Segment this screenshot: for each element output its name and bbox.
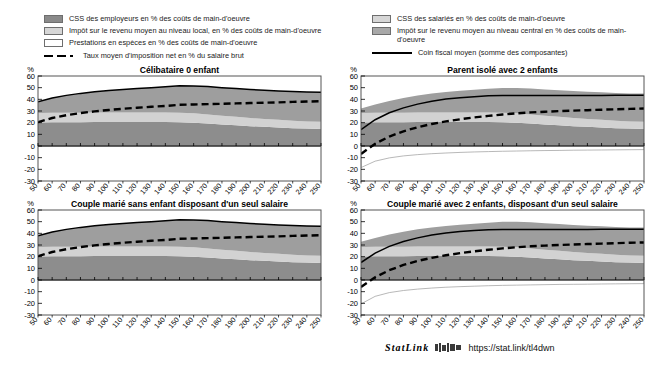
- svg-text:170: 170: [518, 315, 533, 330]
- chart-panel-couple-marie-2-enfants: %Couple marié avec 2 enfants, disposant …: [337, 196, 645, 366]
- svg-text:230: 230: [602, 181, 617, 196]
- svg-text:220: 220: [265, 315, 280, 330]
- svg-text:40: 40: [350, 95, 358, 104]
- svg-text:230: 230: [279, 181, 294, 196]
- svg-text:0: 0: [31, 142, 35, 151]
- svg-text:110: 110: [110, 181, 124, 196]
- svg-text:-10: -10: [24, 287, 35, 296]
- svg-text:50: 50: [350, 83, 358, 92]
- svg-text:-10: -10: [347, 287, 358, 296]
- svg-text:230: 230: [279, 315, 294, 330]
- legend-swatch-dark-gray-icon: [44, 15, 63, 23]
- svg-text:200: 200: [560, 315, 575, 330]
- legend-label: Taux moyen d'imposition net en % du sala…: [83, 51, 244, 60]
- svg-text:-10: -10: [347, 153, 358, 162]
- svg-text:140: 140: [475, 181, 490, 196]
- legend-item-cash-benefits: Prestations en espèces en % des coûts de…: [44, 38, 344, 49]
- legend-dashed-line-icon: [44, 52, 78, 60]
- svg-text:110: 110: [110, 315, 124, 330]
- svg-text:-20: -20: [24, 299, 35, 308]
- svg-text:40: 40: [350, 229, 358, 238]
- svg-text:150: 150: [166, 315, 181, 330]
- svg-text:50: 50: [27, 217, 35, 226]
- svg-text:210: 210: [251, 181, 266, 196]
- svg-text:40: 40: [27, 229, 35, 238]
- legend-label: Impôt sur le revenu moyen au niveau loca…: [69, 26, 321, 35]
- svg-text:30: 30: [27, 241, 35, 250]
- svg-text:140: 140: [152, 181, 167, 196]
- svg-text:120: 120: [447, 181, 462, 196]
- svg-text:150: 150: [166, 181, 181, 196]
- svg-text:160: 160: [503, 181, 518, 196]
- svg-text:160: 160: [180, 315, 195, 330]
- svg-text:30: 30: [350, 107, 358, 116]
- svg-text:180: 180: [532, 315, 547, 330]
- svg-text:170: 170: [195, 181, 210, 196]
- svg-text:130: 130: [461, 181, 476, 196]
- svg-text:190: 190: [546, 181, 561, 196]
- legend-label: CSS des salariés en % des coûts de main-…: [397, 14, 565, 23]
- svg-text:120: 120: [124, 181, 139, 196]
- statlink-url[interactable]: https://stat.link/tl4dwn: [468, 343, 554, 353]
- legend-swatch-light-gray-icon: [372, 15, 391, 23]
- legend-item-local-income-tax: Impôt sur le revenu moyen au niveau loca…: [44, 26, 344, 37]
- svg-text:100: 100: [96, 315, 111, 330]
- svg-text:-20: -20: [347, 165, 358, 174]
- legend-label: Coin fiscal moyen (somme des composantes…: [418, 48, 568, 57]
- legend-label: Impôt sur le revenu moyen au niveau cent…: [397, 26, 640, 45]
- svg-text:180: 180: [532, 181, 547, 196]
- svg-text:210: 210: [251, 315, 266, 330]
- legend-label: CSS des employeurs en % des coûts de mai…: [69, 14, 250, 23]
- svg-text:Couple marié avec 2 enfants, d: Couple marié avec 2 enfants, disposant d…: [387, 199, 618, 209]
- svg-text:140: 140: [152, 315, 167, 330]
- figure-legend: CSS des employeurs en % des coûts de mai…: [0, 0, 645, 62]
- svg-text:150: 150: [489, 181, 504, 196]
- chart-couple-marie-sans-enfant: %Couple marié sans enfant disposant d'un…: [14, 196, 334, 366]
- svg-text:160: 160: [503, 315, 518, 330]
- svg-text:60: 60: [350, 206, 358, 215]
- svg-text:140: 140: [475, 315, 490, 330]
- svg-text:220: 220: [265, 181, 280, 196]
- svg-text:200: 200: [237, 315, 252, 330]
- svg-text:10: 10: [27, 264, 35, 273]
- statlink-label: StatLink: [385, 342, 429, 353]
- svg-text:190: 190: [223, 315, 238, 330]
- svg-text:110: 110: [433, 181, 447, 196]
- svg-text:120: 120: [447, 315, 462, 330]
- svg-text:-10: -10: [24, 153, 35, 162]
- svg-text:240: 240: [617, 315, 632, 330]
- svg-text:230: 230: [602, 315, 617, 330]
- svg-text:250: 250: [631, 181, 645, 196]
- taxing-wages-figure: CSS des employeurs en % des coûts de mai…: [0, 0, 645, 366]
- svg-text:240: 240: [617, 181, 632, 196]
- svg-text:0: 0: [354, 142, 358, 151]
- svg-text:130: 130: [461, 315, 476, 330]
- svg-text:0: 0: [31, 276, 35, 285]
- svg-text:210: 210: [574, 181, 589, 196]
- svg-text:-20: -20: [24, 165, 35, 174]
- svg-text:60: 60: [27, 206, 35, 215]
- svg-text:210: 210: [574, 315, 589, 330]
- svg-text:220: 220: [588, 315, 603, 330]
- legend-item-central-income-tax: Impôt sur le revenu moyen au niveau cent…: [372, 26, 640, 45]
- svg-text:20: 20: [350, 118, 358, 127]
- chart-panel-couple-marie-sans-enfant: %Couple marié sans enfant disposant d'un…: [14, 196, 334, 366]
- svg-text:10: 10: [350, 264, 358, 273]
- statlink-block[interactable]: StatLink https://stat.link/tl4dwn: [385, 342, 554, 353]
- svg-text:200: 200: [560, 181, 575, 196]
- svg-text:Célibataire 0 enfant: Célibataire 0 enfant: [140, 65, 219, 75]
- svg-text:0: 0: [354, 276, 358, 285]
- svg-text:180: 180: [209, 181, 224, 196]
- svg-text:190: 190: [546, 315, 561, 330]
- svg-text:100: 100: [419, 315, 434, 330]
- svg-text:250: 250: [308, 181, 323, 196]
- svg-text:30: 30: [27, 107, 35, 116]
- svg-text:240: 240: [294, 315, 309, 330]
- svg-text:220: 220: [588, 181, 603, 196]
- svg-text:Couple marié sans enfant dispo: Couple marié sans enfant disposant d'un …: [71, 199, 288, 209]
- legend-item-net-average-tax-rate: Taux moyen d'imposition net en % du sala…: [44, 51, 344, 60]
- legend-column-right: CSS des salariés en % des coûts de main-…: [372, 14, 640, 60]
- svg-text:240: 240: [294, 181, 309, 196]
- svg-text:160: 160: [180, 181, 195, 196]
- svg-text:10: 10: [27, 130, 35, 139]
